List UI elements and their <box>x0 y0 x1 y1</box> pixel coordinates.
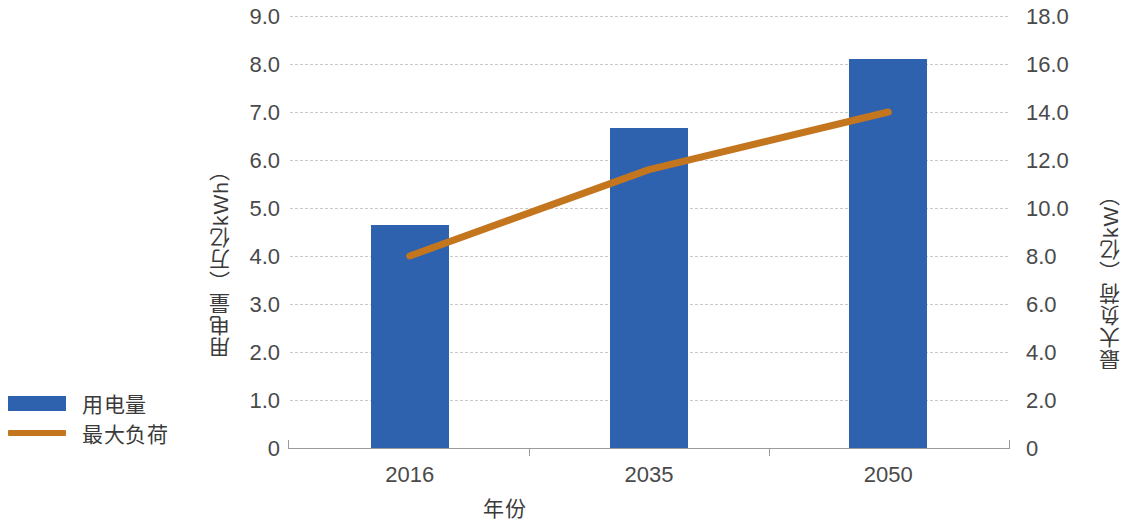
x-tick-mark-1 <box>529 448 530 456</box>
chart-container: 用电量 最大负荷 用电量（万亿kWh） 最大负荷（亿kW） 9.0 8.0 7.… <box>0 0 1128 529</box>
x-axis-line <box>288 448 1010 449</box>
legend-item-electricity-consumption[interactable]: 用电量 <box>8 388 208 418</box>
y-axis-right-title: 最大负荷（亿kW） <box>1096 150 1126 370</box>
x-axis-left-cap <box>288 440 289 449</box>
y-left-tick-2: 2.0 <box>228 342 280 364</box>
y-right-tick-6: 6.0 <box>1026 294 1096 316</box>
y-left-tick-1: 1.0 <box>228 390 280 412</box>
y-left-tick-3: 3.0 <box>228 294 280 316</box>
y-left-tick-5: 5.0 <box>228 198 280 220</box>
peak-load-line-path <box>410 112 889 256</box>
legend-bar-swatch-icon <box>8 396 66 411</box>
y-left-tick-9: 9.0 <box>228 6 280 28</box>
y-right-tick-4: 4.0 <box>1026 342 1096 364</box>
y-right-tick-14: 14.0 <box>1026 102 1096 124</box>
y-right-tick-0: 0 <box>1026 438 1096 460</box>
x-tick-mark-2 <box>769 448 770 456</box>
x-axis-title: 年份 <box>0 492 1010 522</box>
y-left-tick-6: 6.0 <box>228 150 280 172</box>
peak-load-line-series[interactable] <box>290 16 1008 448</box>
y-right-tick-18: 18.0 <box>1026 6 1096 28</box>
y-right-tick-16: 16.0 <box>1026 54 1096 76</box>
legend-line-swatch-icon <box>8 430 66 436</box>
x-axis-right-cap <box>1009 440 1010 449</box>
y-right-tick-2: 2.0 <box>1026 390 1096 412</box>
chart-legend: 用电量 最大负荷 <box>8 388 208 448</box>
legend-item-peak-load[interactable]: 最大负荷 <box>8 418 208 448</box>
x-tick-label-2035: 2035 <box>589 462 709 488</box>
legend-label-electricity-consumption: 用电量 <box>82 388 147 418</box>
y-left-tick-7: 7.0 <box>228 102 280 124</box>
plot-area <box>290 16 1008 448</box>
x-tick-label-2016: 2016 <box>350 462 470 488</box>
y-left-tick-4: 4.0 <box>228 246 280 268</box>
y-right-tick-12: 12.0 <box>1026 150 1096 172</box>
x-tick-label-2050: 2050 <box>828 462 948 488</box>
y-left-tick-8: 8.0 <box>228 54 280 76</box>
legend-label-peak-load: 最大负荷 <box>82 418 168 448</box>
y-left-tick-0: 0 <box>228 438 280 460</box>
y-right-tick-10: 10.0 <box>1026 198 1096 220</box>
y-right-tick-8: 8.0 <box>1026 246 1096 268</box>
